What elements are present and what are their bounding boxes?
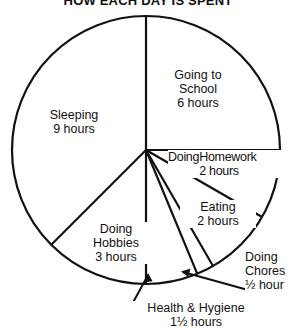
slice-label-line1: Doing: [245, 250, 296, 264]
slice-label-line2: Chores: [245, 264, 296, 278]
slice-label-going-to-school: Going to School 6 hours: [152, 68, 244, 110]
slice-label-value: 2 hours: [168, 164, 292, 178]
pie-chart: HOW EACH DAY IS SPENT Going to School 6 …: [0, 0, 296, 329]
slice-label-doing-chores: Doing Chores ½ hour: [245, 250, 296, 292]
slice-label-line2: Hobbies: [78, 236, 154, 250]
leader-line-chores: [183, 272, 248, 290]
slice-label-sleeping: Sleeping 9 hours: [28, 108, 120, 136]
slice-label-health-and-hygiene: Health & Hygiene 1½ hours: [103, 301, 289, 329]
slice-label-line1: Going to: [152, 68, 244, 82]
slice-label-doing-hobbies: Doing Hobbies 3 hours: [78, 222, 154, 264]
slice-label-value: 1½ hours: [103, 315, 289, 329]
slice-label-value: 3 hours: [78, 250, 154, 264]
slice-label-line2: School: [152, 82, 244, 96]
slice-label-value: 2 hours: [180, 214, 256, 228]
slice-label-doing-homework: DoingHomework 2 hours: [168, 150, 292, 178]
slice-label-line1: Eating: [180, 200, 256, 214]
slice-label-value: ½ hour: [245, 278, 296, 292]
slice-label-line1: Doing: [78, 222, 154, 236]
slice-label-value: 9 hours: [28, 122, 120, 136]
slice-label-line1: DoingHomework: [168, 150, 292, 164]
slice-label-line1: Sleeping: [28, 108, 120, 122]
slice-label-line1: Health & Hygiene: [103, 301, 289, 315]
slice-label-value: 6 hours: [152, 96, 244, 110]
slice-label-eating: Eating 2 hours: [180, 200, 256, 228]
